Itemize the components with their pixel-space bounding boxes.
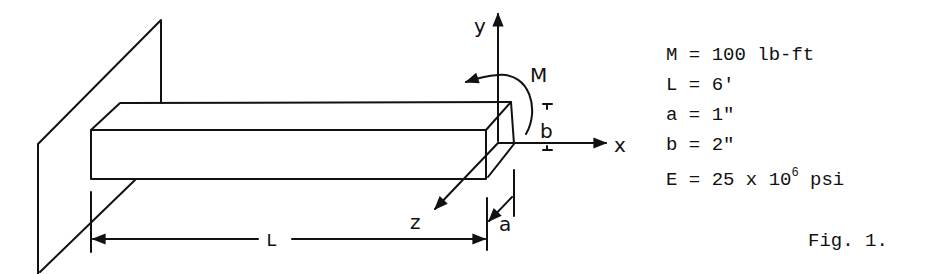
param-width: a = 1" (666, 100, 844, 130)
param-moment: M = 100 lb-ft (666, 40, 844, 70)
param-modulus: E = 25 x 106 psi (666, 160, 844, 195)
length-label: L (266, 230, 277, 252)
moment-label: M (530, 63, 547, 87)
moment-arc (466, 75, 532, 134)
z-axis-label: z (410, 210, 421, 234)
x-axis-label: x (614, 133, 626, 157)
param-length: L = 6' (666, 70, 844, 100)
parameter-list: M = 100 lb-ft L = 6' a = 1" b = 2" E = 2… (666, 40, 844, 195)
depth-label: b (540, 119, 553, 143)
width-label: a (499, 212, 511, 236)
y-axis-label: y (474, 14, 486, 38)
figure-caption: Fig. 1. (808, 230, 888, 252)
length-dimension (91, 192, 487, 252)
beam (91, 102, 514, 179)
param-depth: b = 2" (666, 130, 844, 160)
